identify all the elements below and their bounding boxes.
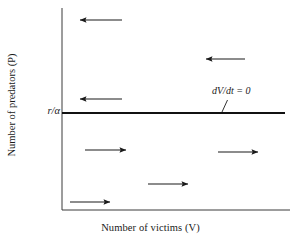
phase-plane-figure: Number of predators (P) Number of victim…	[0, 0, 301, 243]
y-axis-label-container: Number of predators (P)	[0, 0, 22, 210]
nullcline-annotation-label: dV/dt = 0	[212, 85, 250, 96]
y-axis-label: Number of predators (P)	[6, 54, 17, 157]
annotation-leader-line	[222, 100, 228, 112]
plot-canvas	[0, 0, 301, 243]
y-tick-label-r-over-alpha: r/α	[30, 105, 60, 116]
x-axis-label: Number of victims (V)	[0, 222, 301, 233]
